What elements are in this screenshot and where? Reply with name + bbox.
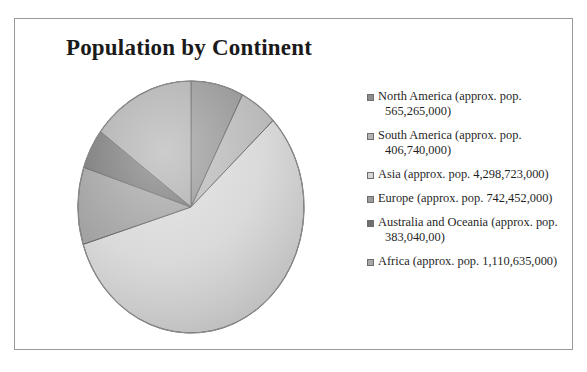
legend-label: Australia and Oceania (approx. pop. 383,… (378, 215, 567, 245)
legend-label: North America (approx. pop. 565,265,000) (378, 89, 567, 119)
legend-item: Australia and Oceania (approx. pop. 383,… (367, 215, 567, 245)
legend-item: South America (approx. pop. 406,740,000) (367, 128, 567, 158)
legend-swatch-north-america (367, 94, 374, 101)
legend-swatch-australia-oceania (367, 220, 374, 227)
chart-page: Population by Continent (0, 0, 587, 372)
legend-label: Africa (approx. pop. 1,110,635,000) (378, 254, 557, 269)
legend-item: Europe (approx. pop. 742,452,000) (367, 191, 567, 206)
pie-chart (69, 67, 313, 337)
legend-swatch-europe (367, 196, 374, 203)
legend-swatch-asia (367, 172, 374, 179)
chart-legend: North America (approx. pop. 565,265,000)… (367, 89, 567, 278)
pie-chart-svg (69, 67, 313, 337)
chart-title: Population by Continent (15, 35, 363, 61)
legend-label: Asia (approx. pop. 4,298,723,000) (378, 167, 549, 182)
legend-label: Europe (approx. pop. 742,452,000) (378, 191, 552, 206)
legend-item: North America (approx. pop. 565,265,000) (367, 89, 567, 119)
legend-item: Asia (approx. pop. 4,298,723,000) (367, 167, 567, 182)
pie-gloss-overlay (78, 81, 304, 333)
legend-item: Africa (approx. pop. 1,110,635,000) (367, 254, 567, 269)
legend-swatch-south-america (367, 133, 374, 140)
legend-swatch-africa (367, 259, 374, 266)
legend-label: South America (approx. pop. 406,740,000) (378, 128, 567, 158)
chart-frame: Population by Continent (14, 18, 573, 350)
